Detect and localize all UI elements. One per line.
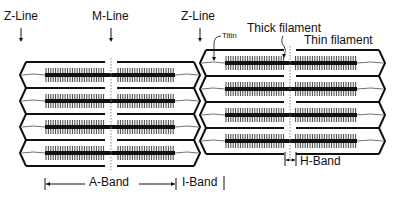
left-titin <box>22 152 45 153</box>
right-titin <box>357 62 383 63</box>
left-titin <box>22 100 45 101</box>
right-titin <box>357 140 383 141</box>
label-a-band: A-Band <box>89 176 129 188</box>
label-thin-filament: Thin filament <box>304 34 373 46</box>
titin-pointer <box>214 36 221 60</box>
right-titin <box>357 114 383 115</box>
label-h-band: H-Band <box>300 155 341 167</box>
left-titin <box>175 152 198 153</box>
left-thick-filament <box>45 99 175 103</box>
left-titin <box>22 126 45 127</box>
label-i-band: I-Band <box>182 176 217 188</box>
m-line-arrow-head <box>109 38 113 42</box>
label-z-line-right: Z-Line <box>181 10 215 22</box>
left-titin <box>175 100 198 101</box>
right-titin <box>202 114 225 115</box>
z-line-right-arrow-head <box>198 38 202 42</box>
right-titin <box>357 88 383 89</box>
left-titin <box>175 126 198 127</box>
left-thick-filament <box>45 73 175 77</box>
a-band-arrow-right <box>171 182 175 186</box>
thick-filament-pointer-head <box>282 54 286 58</box>
label-z-line-left: Z-Line <box>4 10 38 22</box>
right-titin <box>202 62 225 63</box>
left-thick-filament <box>45 151 175 155</box>
titin-pointer-head <box>212 57 216 61</box>
left-titin <box>22 74 45 75</box>
left-titin <box>175 74 198 75</box>
label-m-line: M-Line <box>92 10 129 22</box>
h-band-arrow-left <box>286 159 289 162</box>
right-titin <box>202 88 225 89</box>
z-line-left-arrow-head <box>19 38 23 42</box>
left-thick-filament <box>45 125 175 129</box>
h-band-arrow-right <box>292 159 295 162</box>
right-titin <box>202 140 225 141</box>
thick-filament-pointer <box>282 36 286 56</box>
label-titin: Titin <box>222 32 237 40</box>
a-band-arrow-left <box>46 182 50 186</box>
